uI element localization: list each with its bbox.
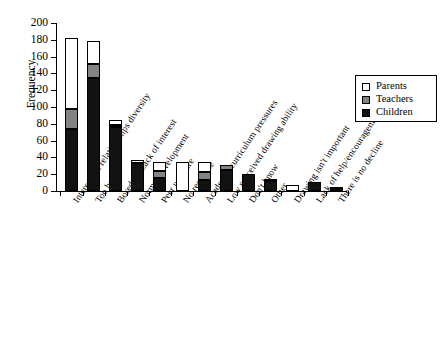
bar-segment-teachers (65, 109, 78, 129)
bar-segment-children (198, 180, 211, 191)
bar-stack (308, 23, 321, 191)
y-tick-mark (51, 40, 56, 41)
bar-segment-children (109, 127, 122, 191)
legend-label: Parents (376, 81, 407, 92)
bar-segment-parents (198, 162, 211, 171)
bar-stack (109, 23, 122, 191)
bar-segment-children (220, 170, 233, 191)
legend-item: Children (362, 106, 431, 119)
y-tick-mark (51, 90, 56, 91)
legend-swatch (362, 96, 370, 104)
legend-swatch (362, 83, 370, 91)
y-tick-mark (51, 191, 56, 192)
bar-segment-parents (153, 162, 166, 170)
bar-segment-teachers (330, 189, 343, 191)
bar-stack (220, 23, 233, 191)
y-tick-mark (51, 174, 56, 175)
bar-segment-teachers (153, 171, 166, 179)
y-tick-mark (51, 73, 56, 74)
y-tick-mark (51, 107, 56, 108)
y-tick-mark (51, 124, 56, 125)
bar-segment-children (264, 181, 277, 191)
y-tick-mark (51, 23, 56, 24)
bar-segment-parents (286, 185, 299, 191)
legend: ParentsTeachersChildren (355, 75, 437, 122)
bar-segment-children (308, 182, 321, 191)
legend-item: Teachers (362, 93, 431, 106)
bar-segment-children (65, 129, 78, 191)
y-tick-mark (51, 141, 56, 142)
bar-segment-parents (176, 162, 189, 191)
bar-stack (65, 23, 78, 191)
bar-segment-parents (65, 38, 78, 109)
bar-stack (198, 23, 211, 191)
legend-label: Children (376, 107, 413, 118)
legend-swatch (362, 109, 370, 117)
bar-chart: Frequency 020406080100120140160180200 In… (0, 0, 447, 357)
y-tick-mark (51, 57, 56, 58)
bar-segment-children (87, 78, 100, 191)
bar-stack (286, 23, 299, 191)
bar-segment-teachers (87, 64, 100, 78)
bar-stack (87, 23, 100, 191)
bar-segment-children (242, 174, 255, 191)
bar-stack (153, 23, 166, 191)
bar-stack (264, 23, 277, 191)
bar-segment-teachers (198, 172, 211, 180)
bar-segment-parents (87, 41, 100, 65)
y-tick-mark (51, 157, 56, 158)
bar-stack (131, 23, 144, 191)
bar-segment-children (153, 178, 166, 191)
legend-label: Teachers (376, 94, 413, 105)
legend-item: Parents (362, 80, 431, 93)
bar-segment-children (131, 163, 144, 191)
bar-stack (176, 23, 189, 191)
bar-stack (242, 23, 255, 191)
bar-stack (330, 23, 343, 191)
